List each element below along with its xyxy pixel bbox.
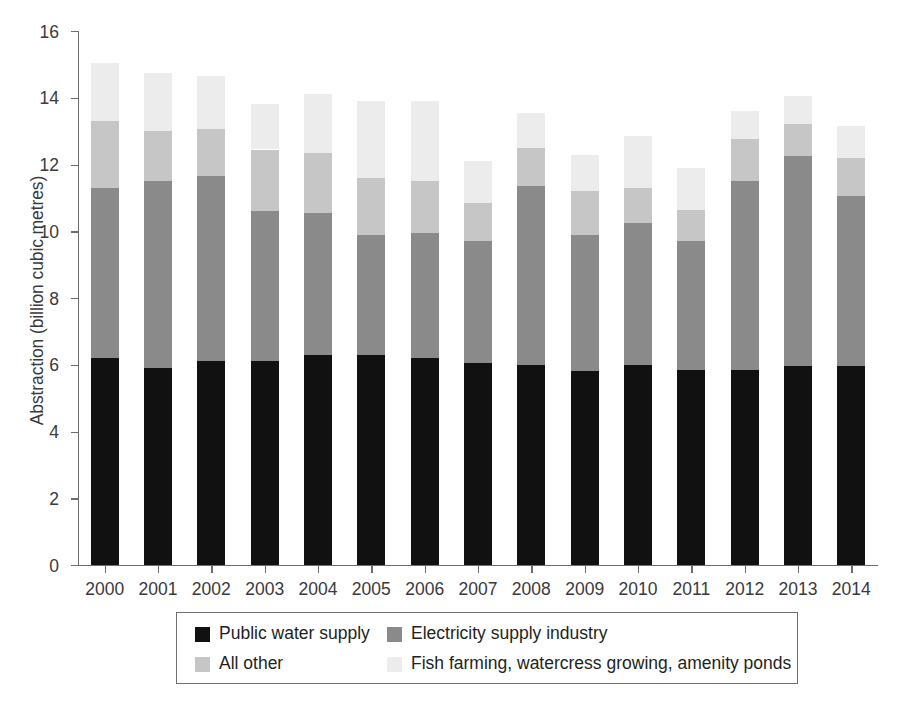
- bar-segment[interactable]: [677, 241, 705, 369]
- y-tick-mark: 0: [71, 565, 78, 566]
- bar-segment[interactable]: [411, 101, 439, 181]
- bar-stack[interactable]: [251, 31, 279, 565]
- bar-segment[interactable]: [784, 96, 812, 124]
- bar-segment[interactable]: [624, 365, 652, 565]
- bar-segment[interactable]: [731, 111, 759, 139]
- bar-segment[interactable]: [464, 161, 492, 203]
- bar-segment[interactable]: [304, 94, 332, 152]
- x-tick-label: 2007: [459, 579, 498, 600]
- x-tick-mark: [745, 565, 746, 573]
- bar-segment[interactable]: [251, 211, 279, 361]
- y-tick-label: 10: [40, 221, 59, 242]
- bar-segment[interactable]: [197, 176, 225, 361]
- bar-segment[interactable]: [251, 150, 279, 212]
- bar-segment[interactable]: [144, 131, 172, 181]
- bar-segment[interactable]: [784, 156, 812, 366]
- bar-stack[interactable]: [144, 31, 172, 565]
- legend-swatch-icon: [387, 657, 402, 672]
- bar-segment[interactable]: [464, 203, 492, 241]
- bar-segment[interactable]: [571, 371, 599, 565]
- bar-segment[interactable]: [251, 361, 279, 565]
- bar-stack[interactable]: [624, 31, 652, 565]
- bar-segment[interactable]: [624, 223, 652, 365]
- bar-segment[interactable]: [837, 366, 865, 565]
- bar-segment[interactable]: [91, 358, 119, 565]
- bar-segment[interactable]: [411, 358, 439, 565]
- bar-segment[interactable]: [571, 191, 599, 234]
- bar-segment[interactable]: [517, 148, 545, 186]
- bar-segment[interactable]: [517, 365, 545, 565]
- bar-segment[interactable]: [677, 168, 705, 210]
- bar-stack[interactable]: [517, 31, 545, 565]
- bar-segment[interactable]: [357, 101, 385, 178]
- bar-stack[interactable]: [677, 31, 705, 565]
- x-tick-mark: [371, 565, 372, 573]
- y-tick-mark: 14: [71, 98, 78, 99]
- bar-segment[interactable]: [677, 370, 705, 565]
- x-tick-label: 2001: [139, 579, 178, 600]
- bar-segment[interactable]: [731, 139, 759, 181]
- bar-segment[interactable]: [837, 158, 865, 196]
- bar-stack[interactable]: [464, 31, 492, 565]
- bar-stack[interactable]: [731, 31, 759, 565]
- bar-segment[interactable]: [91, 188, 119, 358]
- bar-stack[interactable]: [837, 31, 865, 565]
- bar-segment[interactable]: [197, 129, 225, 176]
- bar-segment[interactable]: [91, 121, 119, 188]
- legend-item[interactable]: Public water supply: [195, 621, 370, 647]
- bar-segment[interactable]: [411, 181, 439, 233]
- bar-segment[interactable]: [837, 126, 865, 158]
- legend-item[interactable]: All other: [195, 651, 283, 677]
- bar-segment[interactable]: [144, 368, 172, 565]
- y-tick-label: 2: [49, 488, 59, 509]
- bar-stack[interactable]: [91, 31, 119, 565]
- x-tick-mark: [265, 565, 266, 573]
- bar-segment[interactable]: [571, 235, 599, 372]
- bar-stack[interactable]: [784, 31, 812, 565]
- bar-segment[interactable]: [731, 370, 759, 565]
- legend-swatch-icon: [195, 657, 210, 672]
- bar-segment[interactable]: [357, 178, 385, 235]
- bar-segment[interactable]: [517, 113, 545, 148]
- bar-segment[interactable]: [624, 188, 652, 223]
- bar-segment[interactable]: [731, 181, 759, 370]
- y-tick-mark: 8: [71, 298, 78, 299]
- y-tick-label: 14: [40, 88, 59, 109]
- bar-stack[interactable]: [411, 31, 439, 565]
- bar-segment[interactable]: [464, 363, 492, 565]
- legend-item[interactable]: Fish farming, watercress growing, amenit…: [387, 651, 791, 677]
- legend-item[interactable]: Electricity supply industry: [387, 621, 607, 647]
- bar-segment[interactable]: [784, 366, 812, 565]
- bar-segment[interactable]: [304, 213, 332, 355]
- bar-segment[interactable]: [571, 155, 599, 192]
- bar-segment[interactable]: [517, 186, 545, 365]
- bar-segment[interactable]: [837, 196, 865, 366]
- bar-segment[interactable]: [677, 210, 705, 242]
- bar-segment[interactable]: [464, 241, 492, 363]
- bar-segment[interactable]: [357, 235, 385, 355]
- x-tick-mark: [638, 565, 639, 573]
- bar-stack[interactable]: [357, 31, 385, 565]
- bar-stack[interactable]: [571, 31, 599, 565]
- x-tick-label: 2000: [85, 579, 124, 600]
- bar-segment[interactable]: [197, 76, 225, 129]
- bar-segment[interactable]: [411, 233, 439, 358]
- bar-segment[interactable]: [251, 104, 279, 149]
- bar-segment[interactable]: [784, 124, 812, 156]
- bar-stack[interactable]: [197, 31, 225, 565]
- bar-segment[interactable]: [197, 361, 225, 565]
- bar-segment[interactable]: [304, 153, 332, 213]
- legend-label: Fish farming, watercress growing, amenit…: [411, 655, 791, 673]
- stacked-bar-chart: Abstraction (billion cubic metres) 02468…: [0, 0, 919, 711]
- bar-segment[interactable]: [144, 73, 172, 131]
- bar-stack[interactable]: [304, 31, 332, 565]
- x-tick-label: 2013: [779, 579, 818, 600]
- bar-segment[interactable]: [304, 355, 332, 565]
- bar-segment[interactable]: [91, 63, 119, 121]
- legend-swatch-icon: [195, 627, 210, 642]
- bar-segment[interactable]: [357, 355, 385, 565]
- bar-segment[interactable]: [144, 181, 172, 368]
- x-tick-mark: [798, 565, 799, 573]
- x-tick-label: 2010: [619, 579, 658, 600]
- bar-segment[interactable]: [624, 136, 652, 188]
